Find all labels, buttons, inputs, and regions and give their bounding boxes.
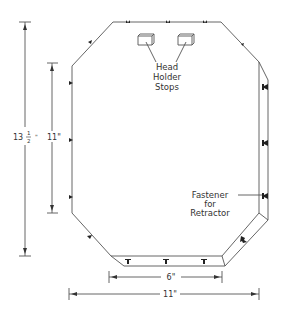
dim-overall-height-num: 1 xyxy=(27,130,31,136)
label-head-holder-stops-3: Stops xyxy=(155,82,179,92)
fastener-icon xyxy=(163,259,169,264)
fastener-markers xyxy=(69,20,268,264)
fastener-icon xyxy=(262,140,268,146)
head-holder-stop-right xyxy=(178,34,194,45)
fastener-icon xyxy=(262,193,268,199)
dim-side-height: 11" xyxy=(47,133,61,142)
dim-overall-height-den: 2 xyxy=(27,138,31,144)
fastener-icon xyxy=(88,40,92,44)
label-head-holder-stops-1: Head xyxy=(156,62,178,72)
fastener-icon xyxy=(125,259,131,264)
fastener-icon xyxy=(87,235,92,239)
retractor-rail xyxy=(111,62,268,266)
fastener-icon xyxy=(240,236,247,243)
label-head-holder-stops-2: Holder xyxy=(153,72,182,82)
fastener-icon xyxy=(262,84,268,90)
board-outline xyxy=(72,22,259,256)
fastener-icon xyxy=(126,20,130,23)
fastener-icon xyxy=(201,259,207,264)
fastener-icon xyxy=(166,20,170,23)
head-holder-stop-left xyxy=(138,34,154,45)
board-diagram: Head Holder Stops Fastener for Retractor… xyxy=(0,0,284,316)
fastener-icon xyxy=(203,20,207,23)
dim-bottom-width: 6" xyxy=(167,273,176,282)
dim-overall-height-unit: " xyxy=(35,133,38,140)
label-fastener-3: Retractor xyxy=(190,208,230,218)
dim-overall-width: 11" xyxy=(163,290,177,299)
dim-overall-height-whole: 13 xyxy=(13,133,23,142)
dimension-bottom-width xyxy=(109,271,222,283)
